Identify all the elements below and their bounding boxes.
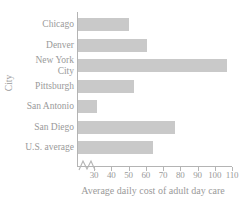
bar-row — [78, 18, 129, 31]
x-axis-title: Average daily cost of adult day care — [60, 185, 246, 196]
bar-row — [78, 39, 147, 52]
x-axis-line — [77, 166, 232, 167]
bar — [78, 18, 129, 31]
category-label: San Diego — [34, 122, 74, 133]
category-label: Chicago — [42, 19, 74, 30]
x-axis-tick-label: 110 — [221, 170, 243, 181]
bar-row — [78, 59, 227, 72]
bar-chart: 30405060708090100110 ChicagoDenverNew Yo… — [0, 0, 246, 205]
bar-row — [78, 80, 134, 93]
bar-row — [78, 100, 97, 113]
bar — [78, 80, 134, 93]
bar-row — [78, 141, 153, 154]
category-label: U.S. average — [25, 142, 74, 153]
bar — [78, 141, 153, 154]
category-label: New YorkCity — [35, 55, 74, 76]
bar — [78, 100, 97, 113]
category-label: San Antonio — [27, 101, 74, 112]
bar-row — [78, 121, 175, 134]
category-label: Pittsburgh — [35, 81, 74, 92]
y-axis-title: City — [4, 63, 14, 103]
bar — [78, 39, 147, 52]
bar — [78, 59, 227, 72]
category-label: Denver — [46, 40, 74, 51]
bar — [78, 121, 175, 134]
